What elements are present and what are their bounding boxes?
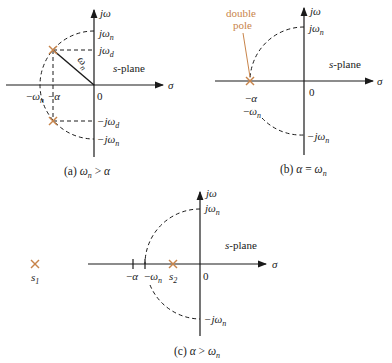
natural-frequency-circle-lower	[262, 118, 304, 135]
caption-b: (b) α = ωn	[280, 163, 327, 178]
s-plane-label: s-plane	[225, 239, 257, 251]
jwn-label: jωn	[97, 27, 114, 42]
jw-axis-label: jω	[98, 7, 111, 19]
panel-a: jω jωn jωd s-plane σ 0 −ωn −α −jωd −jωn …	[6, 7, 174, 180]
neg-jwn-label: −jωn	[97, 133, 119, 148]
caption-a: (a) ωn > α	[64, 165, 111, 180]
s-plane-figure: jω jωn jωd s-plane σ 0 −ωn −α −jωd −jωn …	[0, 0, 392, 363]
neg-wn-label: −ωn	[144, 270, 162, 285]
s2-label: s2	[169, 270, 177, 285]
s-plane-label: s-plane	[113, 62, 145, 74]
radius-line	[53, 50, 94, 85]
natural-frequency-circle-lower	[150, 285, 200, 319]
jwd-label: jωd	[97, 44, 115, 59]
s1-label: s1	[31, 271, 39, 286]
sigma-label: σ	[377, 75, 383, 87]
panel-b: double pole jω jωn s-plane σ 0 −α −ωn −j…	[215, 5, 383, 178]
origin-label: 0	[309, 86, 315, 98]
double-pole-annotation-line2: pole	[233, 19, 252, 31]
sigma-label: σ	[272, 258, 278, 270]
natural-frequency-circle	[250, 27, 304, 81]
panel-c: jω jωn s-plane σ 0 s1 −α −ωn s2 −jωn (c)…	[31, 187, 278, 360]
neg-wn-label: −ωn	[243, 105, 261, 120]
jwn-label: jωn	[203, 202, 220, 217]
origin-label: 0	[97, 90, 103, 102]
neg-jwn-label: −jωn	[204, 313, 226, 328]
s-plane-label: s-plane	[329, 58, 361, 70]
neg-alpha-label: −α	[245, 92, 257, 104]
neg-jwd-label: −jωd	[97, 115, 120, 130]
neg-jwn-label: −jωn	[307, 130, 329, 145]
origin-label: 0	[203, 270, 209, 282]
double-pole-annotation-line1: double	[226, 7, 256, 19]
caption-c: (c) α > ωn	[174, 345, 220, 360]
natural-frequency-circle	[145, 209, 200, 264]
sigma-label: σ	[168, 79, 174, 91]
jw-axis-label: jω	[204, 187, 217, 199]
neg-alpha-label: −α	[48, 90, 60, 102]
jwn-label: jωn	[307, 22, 324, 37]
pole-s1	[31, 260, 39, 268]
double-pole-pointer	[243, 33, 250, 77]
jw-axis-label: jω	[308, 5, 321, 17]
neg-wn-label: −ωn	[26, 90, 44, 105]
neg-alpha-label: −α	[126, 270, 138, 282]
